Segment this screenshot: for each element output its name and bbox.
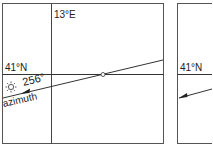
longitude-label: 13°E xyxy=(54,10,76,20)
left-panel-frame xyxy=(3,4,164,144)
latitude-label: 41°N xyxy=(5,63,27,73)
sun-icon xyxy=(6,82,17,93)
right-arrowhead-icon xyxy=(179,93,188,98)
right-latitude-label: 41°N xyxy=(180,63,202,73)
right-panel-frame xyxy=(178,4,213,144)
intersection-point xyxy=(101,73,105,77)
